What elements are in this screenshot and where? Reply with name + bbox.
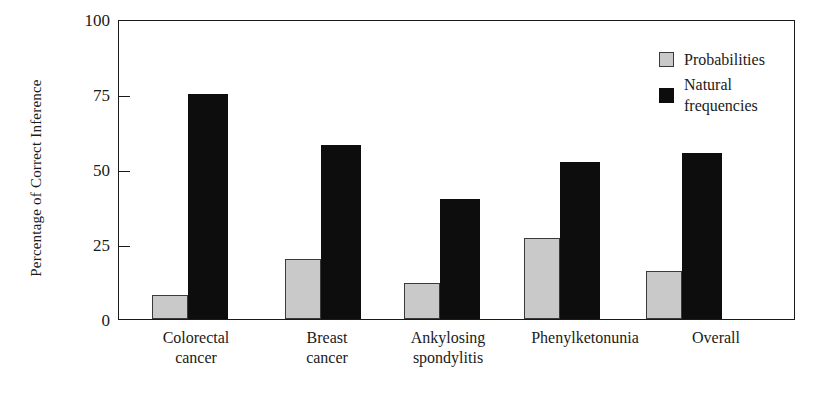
chart-figure: Percentage of Correct Inference 100 75 5…	[0, 0, 814, 400]
y-tick-mark-25	[119, 246, 130, 247]
x-tick-label-phenylketonunia: Phenylketonunia	[509, 328, 661, 348]
y-axis-title: Percentage of Correct Inference	[14, 78, 58, 278]
bar-natural-frequencies-colorectal-cancer	[188, 94, 228, 319]
y-tick-label-100: 100	[64, 12, 110, 29]
bar-natural-frequencies-phenylketonunia	[560, 162, 600, 319]
bar-probabilities-phenylketonunia	[524, 238, 560, 319]
legend-item-natural-frequencies: Natural frequencies	[659, 74, 794, 116]
x-tick-label-breast-cancer-line-1: Breast	[307, 329, 348, 346]
y-axis-title-line-1: Percentage of	[26, 192, 46, 277]
legend: Probabilities Natural frequencies	[659, 49, 794, 116]
legend-swatch-natural-frequencies-icon	[659, 88, 674, 103]
legend-label-probabilities: Probabilities	[684, 49, 765, 70]
y-tick-mark-50	[119, 171, 130, 172]
y-tick-mark-75	[119, 96, 130, 97]
x-tick-label-overall: Overall	[661, 328, 771, 348]
bar-natural-frequencies-ankylosing-spondylitis	[440, 199, 480, 319]
bar-probabilities-ankylosing-spondylitis	[404, 283, 440, 319]
x-tick-label-breast-cancer: Breast cancer	[265, 328, 389, 368]
x-tick-label-ankylosing-spondylitis-line-2: spondylitis	[378, 348, 518, 368]
y-tick-label-50: 50	[64, 162, 110, 179]
y-axis-title-line-2: Correct Inference	[26, 79, 46, 188]
bar-probabilities-overall	[646, 271, 682, 319]
bar-natural-frequencies-breast-cancer	[321, 145, 361, 319]
legend-item-probabilities: Probabilities	[659, 49, 794, 70]
x-tick-label-phenylketonunia-line-1: Phenylketonunia	[531, 329, 639, 346]
plot-area: Probabilities Natural frequencies	[118, 20, 795, 320]
y-tick-label-25: 25	[64, 237, 110, 254]
bar-probabilities-breast-cancer	[285, 259, 321, 319]
x-tick-label-ankylosing-spondylitis-line-1: Ankylosing	[411, 329, 486, 346]
x-tick-label-overall-line-1: Overall	[692, 329, 740, 346]
y-tick-label-0: 0	[64, 312, 110, 329]
x-tick-label-colorectal-cancer-line-1: Colorectal	[163, 329, 230, 346]
legend-swatch-probabilities-icon	[659, 52, 674, 67]
x-tick-label-breast-cancer-line-2: cancer	[265, 348, 389, 368]
y-tick-label-75: 75	[64, 87, 110, 104]
bar-probabilities-colorectal-cancer	[152, 295, 188, 319]
x-tick-label-ankylosing-spondylitis: Ankylosing spondylitis	[378, 328, 518, 368]
bar-natural-frequencies-overall	[682, 153, 722, 319]
x-tick-label-colorectal-cancer-line-2: cancer	[126, 348, 266, 368]
legend-label-natural-frequencies: Natural frequencies	[684, 74, 794, 116]
x-tick-label-colorectal-cancer: Colorectal cancer	[126, 328, 266, 368]
